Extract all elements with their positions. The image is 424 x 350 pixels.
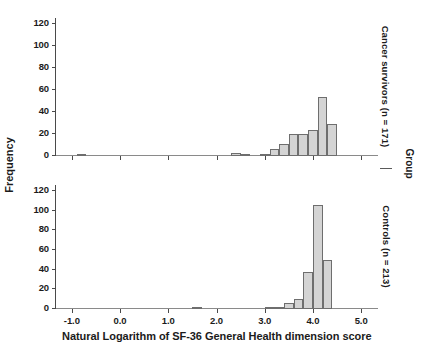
bars-controls xyxy=(55,185,378,309)
x-tick-label: 5.0 xyxy=(341,316,381,326)
histogram-bar xyxy=(265,307,275,309)
histogram-bar xyxy=(313,205,323,309)
y-tick-label: 120 xyxy=(19,185,49,194)
y-axis-title: Frequency xyxy=(3,137,15,193)
x-tick-label: 0.0 xyxy=(100,316,140,326)
x-tick-mark xyxy=(217,309,218,313)
histogram-bar xyxy=(192,307,202,309)
histogram-figure: 020406080100120Cancer survivors (n = 171… xyxy=(0,0,424,350)
group-axis-divider xyxy=(380,168,392,169)
histogram-bar xyxy=(303,272,313,309)
x-tick-label: 1.0 xyxy=(148,316,188,326)
histogram-bar xyxy=(294,299,304,309)
histogram-bar xyxy=(274,307,284,309)
x-tick-mark xyxy=(361,309,362,313)
x-tick-label: 2.0 xyxy=(197,316,237,326)
x-tick-label: 3.0 xyxy=(245,316,285,326)
y-tick-label: 80 xyxy=(19,224,49,233)
x-tick-mark xyxy=(265,309,266,313)
x-axis-title: Natural Logarithm of SF-36 General Healt… xyxy=(62,330,372,342)
histogram-bar xyxy=(323,260,333,309)
group-axis-title: Group xyxy=(404,148,415,178)
y-tick-label: 40 xyxy=(19,264,49,273)
y-tick-label: 60 xyxy=(19,244,49,253)
x-tick-label: -1.0 xyxy=(52,316,92,326)
x-tick-mark xyxy=(313,309,314,313)
panel-label-controls: Controls (n = 213) xyxy=(381,205,392,287)
y-tick-label: 100 xyxy=(19,205,49,214)
x-tick-label: 4.0 xyxy=(293,316,333,326)
y-tick-label: 20 xyxy=(19,283,49,292)
x-tick-mark xyxy=(168,309,169,313)
histogram-bar xyxy=(284,303,294,309)
x-tick-mark xyxy=(120,309,121,313)
panel-controls: 020406080100120-1.00.01.02.03.04.05.0Con… xyxy=(0,0,424,350)
y-tick-label: 0 xyxy=(19,303,49,312)
x-tick-mark xyxy=(72,309,73,313)
